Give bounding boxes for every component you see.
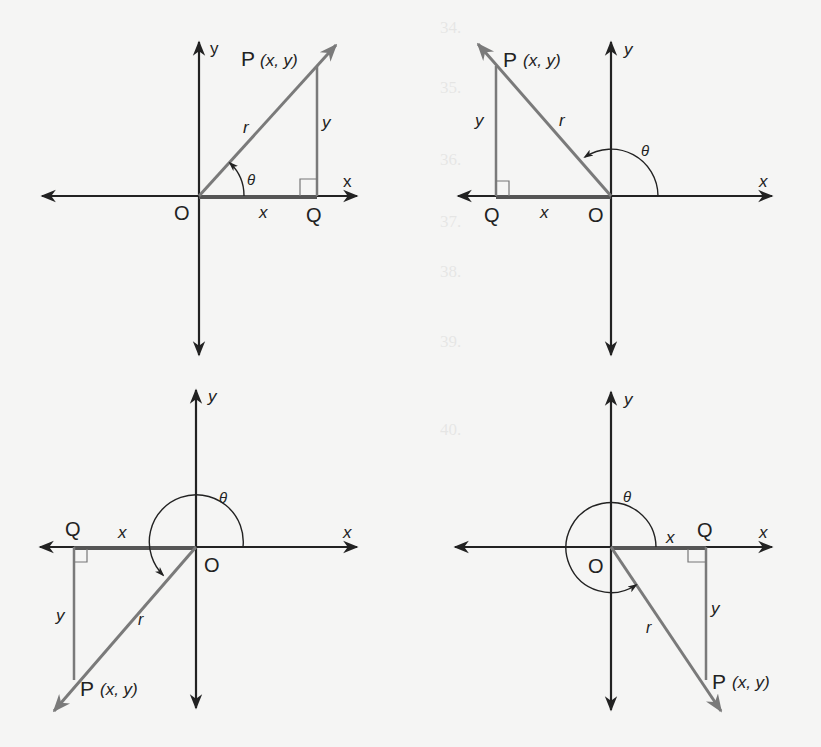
y-axis-label: y	[207, 387, 218, 406]
foot-label: Q	[306, 204, 322, 226]
foot-label: Q	[484, 204, 500, 226]
point-label: P	[80, 677, 94, 700]
x-axis-label: x	[342, 523, 352, 542]
point-label: P	[503, 48, 517, 71]
panel-quadrant-3: y x θ Q x O y r P (x, y)	[40, 387, 357, 711]
radius-label: r	[646, 619, 652, 636]
point-label: P	[712, 670, 726, 693]
right-angle-mark	[496, 181, 509, 196]
y-axis-label: y	[210, 39, 219, 58]
right-angle-mark	[74, 549, 87, 562]
point-label: P	[241, 47, 255, 70]
diagram-svg: y x P (x, y) y r θ O x Q y x P (x, y)	[0, 0, 821, 747]
y-segment-label: y	[710, 599, 721, 618]
foot-label: Q	[65, 518, 81, 540]
radius-label: r	[138, 611, 144, 628]
panel-quadrant-4: y x θ x Q O y r P (x, y)	[455, 390, 772, 711]
point-coords: (x, y)	[523, 51, 561, 70]
x-axis-label: x	[758, 172, 768, 191]
point-coords: (x, y)	[260, 51, 298, 70]
point-coords: (x, y)	[100, 680, 138, 699]
origin-label: O	[588, 204, 604, 226]
origin-label: O	[174, 202, 190, 224]
theta-label: θ	[247, 171, 255, 188]
theta-arc	[230, 163, 244, 196]
y-segment-label: y	[474, 111, 485, 130]
radius-label: r	[243, 118, 250, 137]
x-segment-label: x	[117, 523, 127, 542]
theta-label: θ	[623, 488, 631, 505]
origin-label: O	[588, 555, 604, 577]
right-angle-mark	[300, 179, 317, 196]
x-axis-label: x	[758, 523, 768, 542]
foot-label: Q	[697, 519, 713, 541]
radius-label: r	[559, 111, 566, 130]
panel-quadrant-2: y x P (x, y) y r θ Q x O	[458, 40, 772, 355]
theta-label: θ	[641, 142, 649, 159]
point-coords: (x, y)	[732, 673, 770, 692]
x-segment-label: x	[258, 203, 268, 222]
panel-quadrant-1: y x P (x, y) y r θ O x Q	[42, 39, 357, 355]
y-segment-label: y	[55, 606, 66, 625]
x-axis-label: x	[343, 172, 352, 191]
figure-canvas: 34. 35. 36. 37. 38. 39. 40.	[0, 0, 821, 747]
x-segment-label: x	[539, 203, 549, 222]
right-angle-mark	[688, 549, 706, 562]
y-axis-label: y	[623, 40, 634, 59]
y-segment-label: y	[321, 113, 332, 132]
x-segment-label: x	[665, 528, 675, 547]
radius-ray	[611, 547, 721, 711]
origin-label: O	[204, 554, 220, 576]
theta-label: θ	[219, 489, 227, 506]
y-axis-label: y	[623, 390, 634, 409]
